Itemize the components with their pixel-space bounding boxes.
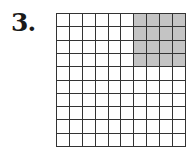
grid-cell [96,134,109,147]
grid-cell [173,81,186,94]
grid-cell [57,41,70,54]
problem-number: 3. [11,10,35,35]
grid-cell [83,134,96,147]
grid-cell [96,94,109,107]
grid-cell [109,134,122,147]
grid-cell [160,107,173,120]
grid-cell [57,120,70,133]
grid-cell [160,81,173,94]
grid-cell [134,67,147,80]
grid-cell [173,120,186,133]
grid-cell [70,107,83,120]
grid-cell [173,94,186,107]
grid-cell [147,67,160,80]
grid-cell [83,107,96,120]
grid-cell [147,81,160,94]
grid-cell [96,107,109,120]
grid-cell [83,14,96,27]
grid-cell [70,41,83,54]
grid-cell-shaded [173,27,186,40]
grid-cell [70,94,83,107]
grid-cell [173,107,186,120]
grid-cell-shaded [147,41,160,54]
grid-cell [70,81,83,94]
grid-cell [121,107,134,120]
grid-cell-shaded [160,14,173,27]
grid-cell [121,54,134,67]
grid-cell [70,54,83,67]
grid-cell [134,94,147,107]
grid-cell [57,134,70,147]
grid-cell [109,54,122,67]
grid-cell [109,67,122,80]
grid-cell [57,14,70,27]
grid-cell [70,120,83,133]
grid-cell [83,41,96,54]
grid-cell [147,134,160,147]
grid-cell [134,107,147,120]
grid-cell [96,27,109,40]
grid-cell [83,67,96,80]
grid-cell [134,134,147,147]
grid-cell [109,120,122,133]
grid-cell-shaded [147,54,160,67]
grid-cell [109,107,122,120]
grid-cell [83,27,96,40]
grid-cell [109,41,122,54]
grid-cell [96,67,109,80]
grid-cell-shaded [160,27,173,40]
grid-cell-shaded [134,27,147,40]
grid-cell-shaded [134,14,147,27]
grid-cell [83,94,96,107]
grid-cell [147,107,160,120]
grid-cell [109,81,122,94]
grid-cell [134,81,147,94]
grid-cell [57,27,70,40]
grid-cell [70,14,83,27]
grid-cell [96,54,109,67]
grid-cell [57,67,70,80]
grid-cell [121,41,134,54]
grid-cell [83,54,96,67]
grid-cell [121,120,134,133]
grid-cell-shaded [173,54,186,67]
grid-cell [121,14,134,27]
grid-cell [96,120,109,133]
grid-cell [70,67,83,80]
grid-cell [134,120,147,133]
grid-cell-shaded [160,54,173,67]
grid-cell-shaded [160,41,173,54]
grid-cell [173,67,186,80]
grid-cell [109,14,122,27]
grid-cell [160,134,173,147]
grid-cell [160,67,173,80]
grid-cell [57,94,70,107]
grid-cell-shaded [134,54,147,67]
grid-cell-shaded [173,14,186,27]
grid-cell [109,94,122,107]
grid-cell [147,120,160,133]
grid-cell [96,14,109,27]
grid-cell [57,54,70,67]
grid-cell-shaded [173,41,186,54]
grid-cell-shaded [147,27,160,40]
grid-cell [57,81,70,94]
grid-cell [96,81,109,94]
grid-cell [57,107,70,120]
grid-cell [70,134,83,147]
grid-cell [121,94,134,107]
grid-cell [83,81,96,94]
grid-cell [121,27,134,40]
grid-cell [160,94,173,107]
grid-cell-shaded [147,14,160,27]
grid-cell [121,81,134,94]
grid-cell [109,27,122,40]
grid-cell [160,120,173,133]
grid-cell [147,94,160,107]
grid-cell [96,41,109,54]
hundred-grid [56,13,186,147]
grid-cell [121,67,134,80]
grid-cell [173,134,186,147]
grid-cell [83,120,96,133]
grid-cell [121,134,134,147]
